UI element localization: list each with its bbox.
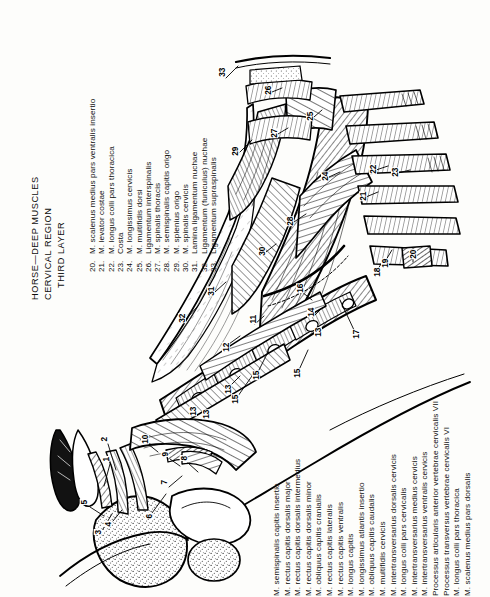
legend-lower-label: M. longus colli pars thoracica bbox=[452, 488, 461, 596]
callout-21: 21 bbox=[359, 191, 367, 201]
legend-lower-label: M. rectus capitis dorsalis minor bbox=[304, 481, 313, 596]
legend-lower-label: M. obliquus capitis cranialis bbox=[314, 494, 323, 596]
legend-upper-number: 28. bbox=[162, 261, 171, 272]
legend-lower-label: M. intertransversarius medius cervicis bbox=[410, 456, 419, 596]
plate-title-line-3: THIRD LAYER bbox=[56, 222, 66, 288]
legend-upper-label: M. spinalis thoracis bbox=[153, 183, 162, 254]
legend-upper-number: 20. bbox=[88, 261, 97, 272]
legend-upper-label: M. spinalis cervicis bbox=[181, 184, 190, 254]
legend-lower-label: M. rectus capitis dorsalis intermedius bbox=[293, 459, 302, 596]
callout-15b: 15 bbox=[293, 368, 301, 378]
legend-upper-label: Lamina ligamentum nuchae bbox=[190, 152, 199, 254]
callout-14: 14 bbox=[307, 307, 315, 317]
legend-lower-label: M. obliquus capitis caudalis bbox=[367, 494, 376, 596]
legend-lower-label: M. longissimus atlantis insertio bbox=[357, 482, 366, 596]
legend-upper-label: Ligamentum supraspinalis bbox=[209, 157, 218, 254]
anatomical-plate: HORSE—DEEP MUSCLES CERVICAL REGION THIRD… bbox=[0, 0, 490, 597]
plate-title-line-2: CERVICAL REGION bbox=[43, 208, 53, 301]
legend-upper-label: Ligamentum interspinalis bbox=[144, 162, 153, 254]
callout-23: 23 bbox=[391, 167, 399, 177]
legend-upper-label: M. semispinalis capitis origo bbox=[162, 150, 171, 254]
callout-2: 2 bbox=[100, 436, 108, 442]
legend-upper-number: 29. bbox=[172, 261, 181, 272]
legend-lower-label: M. rectus capitis dorsalis major bbox=[283, 481, 292, 596]
legend-upper-number: 23. bbox=[116, 261, 125, 272]
legend-lower-label: M. rectus capitis ventralis bbox=[336, 502, 345, 596]
legend-lower-label: M. multifidis cervicis bbox=[378, 521, 387, 596]
callout-27: 27 bbox=[270, 128, 278, 138]
legend-upper-number: 31. bbox=[190, 261, 199, 272]
callout-13d: 13 bbox=[189, 406, 197, 416]
callout-24: 24 bbox=[321, 171, 329, 181]
legend-upper-number: 30. bbox=[181, 261, 190, 272]
legend-upper-label: Costa bbox=[116, 232, 125, 254]
callout-4: 4 bbox=[104, 521, 112, 527]
legend-upper-label: M. scalenus medius pars ventralis insert… bbox=[88, 99, 97, 254]
callout-31: 31 bbox=[207, 286, 215, 296]
legend-upper-label: M. longissimus cervicis bbox=[125, 168, 134, 254]
callout-9: 9 bbox=[161, 451, 169, 457]
legend-lower-label: Processus transversus vertebrae cervical… bbox=[442, 427, 451, 596]
callout-17: 17 bbox=[352, 329, 360, 339]
callout-12: 12 bbox=[222, 342, 230, 352]
legend-upper-number: 33. bbox=[209, 261, 218, 272]
callout-13: 13 bbox=[224, 384, 232, 394]
legend-upper-number: 27. bbox=[153, 261, 162, 272]
legend-upper-label: M. longus colli pars thoracica bbox=[107, 146, 116, 254]
legend-upper-label: M. levator costae bbox=[97, 190, 106, 254]
callout-11: 11 bbox=[249, 314, 257, 324]
callout-33: 33 bbox=[218, 67, 226, 77]
legend-lower-label: M. scalenus medius pars dorsalis bbox=[463, 473, 472, 597]
callout-8: 8 bbox=[180, 455, 188, 461]
legend-lower-label: Processus articularis anterior vertebrae… bbox=[431, 401, 440, 596]
legend-lower-label: M. rectus capitis lateralis bbox=[325, 504, 334, 596]
callout-1: 1 bbox=[102, 456, 110, 462]
callout-13c: 13 bbox=[314, 327, 322, 337]
callout-3: 3 bbox=[94, 529, 102, 535]
callout-18: 18 bbox=[373, 267, 381, 277]
callout-15c: 15 bbox=[231, 394, 239, 404]
callout-28: 28 bbox=[286, 216, 294, 226]
legend-upper-label: Ligamentum (funiculus) nuchae bbox=[200, 138, 209, 254]
legend-lower-label: M. longus capitis bbox=[346, 534, 355, 596]
callout-5: 5 bbox=[80, 499, 88, 505]
callout-13b: 13 bbox=[202, 409, 210, 419]
callout-10: 10 bbox=[141, 434, 149, 444]
legend-upper-number: 26. bbox=[144, 261, 153, 272]
callout-6: 6 bbox=[145, 513, 153, 519]
callout-22: 22 bbox=[369, 164, 377, 174]
callout-32: 32 bbox=[178, 313, 186, 323]
callout-7: 7 bbox=[160, 479, 168, 485]
legend-lower-label: M. longus colli pars cervicalis bbox=[399, 487, 408, 596]
callout-29: 29 bbox=[231, 146, 239, 156]
legend-upper-number: 25. bbox=[135, 261, 144, 272]
callout-30: 30 bbox=[258, 246, 266, 256]
legend-upper-number: 21. bbox=[97, 261, 106, 272]
callout-26: 26 bbox=[264, 85, 272, 95]
callout-25: 25 bbox=[306, 111, 314, 121]
callout-16: 16 bbox=[296, 283, 304, 293]
plate-title-line-1: HORSE—DEEP MUSCLES bbox=[30, 176, 40, 300]
legend-upper-label: M. splenius origo bbox=[172, 191, 181, 254]
callout-19: 19 bbox=[381, 258, 389, 268]
legend-lower-label: M. intertransversarius dorsalis cervicis bbox=[389, 454, 398, 596]
legend-upper-number: 24. bbox=[125, 261, 134, 272]
legend-upper-label: M. multifidis dorsi bbox=[135, 189, 144, 254]
legend-upper-number: 32. bbox=[200, 261, 209, 272]
legend-lower-label: M. intertransversarius ventralis cervici… bbox=[420, 452, 429, 596]
callout-20: 20 bbox=[409, 249, 417, 259]
legend-lower-label: M. semispinalis capitis insertio bbox=[272, 483, 281, 596]
callout-15: 15 bbox=[252, 370, 260, 380]
legend-upper-number: 22. bbox=[107, 261, 116, 272]
